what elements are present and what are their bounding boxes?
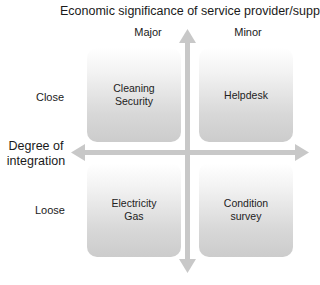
axes-arrows xyxy=(0,0,320,285)
